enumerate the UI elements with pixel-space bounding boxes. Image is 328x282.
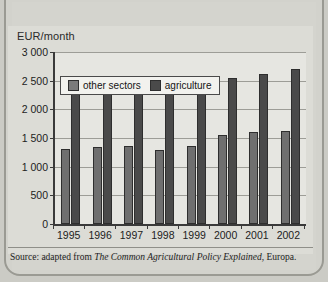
y-axis-tick-label: 0 — [42, 218, 48, 230]
bar-other-sectors-1996 — [93, 147, 102, 224]
y-axis-tick-label: 1 500 — [22, 132, 48, 144]
bar-agriculture-1998 — [165, 88, 174, 224]
bar-other-sectors-2001 — [249, 132, 258, 224]
bar-agriculture-2000 — [228, 78, 237, 224]
bar-other-sectors-2002 — [281, 131, 290, 224]
footer-divider — [8, 247, 313, 248]
legend-swatch-icon-agriculture — [150, 80, 161, 91]
source-note: Source: adapted from The Common Agricult… — [10, 252, 296, 262]
x-axis-label-2001: 2001 — [241, 229, 272, 241]
y-axis-tick-label: 2 500 — [22, 75, 48, 87]
x-axis-label-2000: 2000 — [210, 229, 241, 241]
bar-other-sectors-2000 — [218, 135, 227, 224]
legend-swatch-icon-other-sectors — [68, 80, 79, 91]
y-axis-tick-label: 2 000 — [22, 103, 48, 115]
source-title: The Common Agricultural Policy Explained — [94, 252, 262, 262]
y-axis-tick-label: 500 — [30, 189, 48, 201]
chart-legend: other sectors agriculture — [60, 76, 220, 95]
x-axis-label-1999: 1999 — [179, 229, 210, 241]
legend-item-other-sectors: other sectors — [68, 80, 141, 91]
legend-item-agriculture: agriculture — [150, 80, 212, 91]
bar-agriculture-2002 — [291, 69, 300, 224]
bar-group — [275, 52, 306, 224]
source-prefix: Source: adapted from — [10, 252, 94, 262]
x-axis-label-2002: 2002 — [273, 229, 304, 241]
bar-other-sectors-1997 — [124, 146, 133, 224]
bar-agriculture-1999 — [197, 83, 206, 224]
bar-agriculture-1996 — [103, 91, 112, 224]
bar-agriculture-1995 — [71, 91, 80, 224]
y-axis-tick-label: 3 000 — [22, 46, 48, 58]
chart-card: EUR/month 05001 0001 5002 0002 5003 000 … — [8, 26, 313, 254]
x-axis-label-1998: 1998 — [147, 229, 178, 241]
bar-other-sectors-1995 — [61, 149, 70, 224]
bar-group — [243, 52, 274, 224]
x-axis-labels: 19951996199719981999200020012002 — [53, 229, 304, 241]
bar-other-sectors-1999 — [187, 146, 196, 224]
x-axis-label-1996: 1996 — [84, 229, 115, 241]
figure-page: EUR/month 05001 0001 5002 0002 5003 000 … — [0, 0, 328, 282]
legend-label-other-sectors: other sectors — [83, 80, 141, 91]
bar-agriculture-2001 — [259, 74, 268, 224]
y-axis-title: EUR/month — [17, 30, 75, 42]
legend-label-agriculture: agriculture — [165, 80, 212, 91]
x-axis-label-1995: 1995 — [53, 229, 84, 241]
bar-other-sectors-1998 — [155, 150, 164, 224]
source-suffix: , Europa. — [262, 252, 297, 262]
x-axis-label-1997: 1997 — [116, 229, 147, 241]
y-axis-tick-label: 1 000 — [22, 161, 48, 173]
bar-agriculture-1997 — [134, 91, 143, 224]
